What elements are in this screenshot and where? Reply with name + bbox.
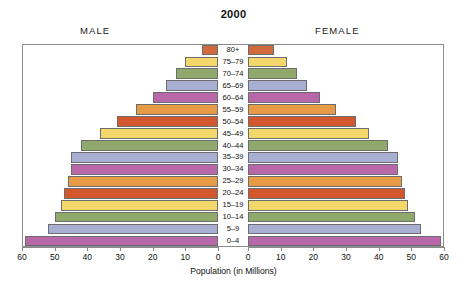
axis-tick: [87, 247, 88, 251]
male-bar: [117, 116, 218, 127]
x-axis-label: Population (in Millions): [0, 266, 467, 276]
age-band-row: 40–44: [22, 140, 444, 152]
age-band-label: 5–9: [218, 223, 248, 235]
age-band-label: 30–34: [218, 163, 248, 175]
axis-tick-label: 20: [141, 252, 165, 262]
axis-tick-label: 0: [206, 252, 230, 262]
female-bar: [248, 92, 320, 103]
female-bar: [248, 200, 408, 211]
age-band-label: 15–19: [218, 199, 248, 211]
age-band-row: 0–4: [22, 235, 444, 247]
age-band-row: 35–39: [22, 151, 444, 163]
age-band-label: 20–24: [218, 187, 248, 199]
axis-tick: [313, 247, 314, 251]
age-band-label: 10–14: [218, 211, 248, 223]
male-bar: [55, 212, 218, 223]
axis-tick-label: 10: [173, 252, 197, 262]
axis-tick-label: 60: [432, 252, 456, 262]
axis-tick-label: 10: [269, 252, 293, 262]
axis-tick-label: 50: [399, 252, 423, 262]
age-band-label: 55–59: [218, 104, 248, 116]
female-bar: [248, 188, 405, 199]
female-bar: [248, 164, 398, 175]
male-bar: [81, 140, 218, 151]
age-band-label: 80+: [218, 44, 248, 56]
male-bar: [61, 200, 218, 211]
axis-tick: [120, 247, 121, 251]
age-band-label: 0–4: [218, 235, 248, 247]
axis-tick-label: 50: [43, 252, 67, 262]
age-band-label: 40–44: [218, 140, 248, 152]
population-pyramid-chart: 2000 MALE FEMALE 80+75–7970–7465–6960–64…: [0, 0, 467, 285]
male-bar: [100, 128, 218, 139]
male-bar: [71, 152, 218, 163]
bar-rows: 80+75–7970–7465–6960–6455–5950–5445–4940…: [22, 44, 444, 247]
female-panel-label: FEMALE: [315, 25, 360, 36]
female-bar: [248, 224, 421, 235]
age-band-row: 75–79: [22, 56, 444, 68]
female-bar: [248, 152, 398, 163]
age-band-label: 65–69: [218, 80, 248, 92]
male-bar: [48, 224, 218, 235]
age-band-label: 35–39: [218, 151, 248, 163]
male-bar: [68, 176, 218, 187]
axis-tick: [379, 247, 380, 251]
male-bar: [176, 68, 218, 79]
age-band-row: 20–24: [22, 187, 444, 199]
male-bar: [185, 57, 218, 68]
age-band-label: 50–54: [218, 116, 248, 128]
axis-tick: [218, 247, 219, 251]
age-band-row: 10–14: [22, 211, 444, 223]
age-band-row: 60–64: [22, 92, 444, 104]
age-band-row: 45–49: [22, 128, 444, 140]
axis-tick: [444, 247, 445, 251]
female-bar: [248, 104, 336, 115]
age-band-row: 55–59: [22, 104, 444, 116]
female-bar: [248, 176, 402, 187]
male-bar: [25, 236, 218, 247]
axis-tick: [248, 247, 249, 251]
age-band-label: 75–79: [218, 56, 248, 68]
male-bar: [202, 45, 218, 56]
female-bar: [248, 212, 415, 223]
axis-tick: [185, 247, 186, 251]
age-band-row: 30–34: [22, 163, 444, 175]
female-bar: [248, 57, 287, 68]
age-band-row: 70–74: [22, 68, 444, 80]
axis-tick: [153, 247, 154, 251]
age-band-row: 25–29: [22, 175, 444, 187]
male-bar: [136, 104, 218, 115]
age-band-row: 50–54: [22, 116, 444, 128]
axis-tick-label: 30: [334, 252, 358, 262]
axis-tick-label: 60: [10, 252, 34, 262]
female-bar: [248, 68, 297, 79]
age-band-row: 65–69: [22, 80, 444, 92]
axis-tick: [281, 247, 282, 251]
axis-tick: [411, 247, 412, 251]
male-panel-label: MALE: [80, 25, 110, 36]
age-band-row: 5–9: [22, 223, 444, 235]
female-bar: [248, 128, 369, 139]
axis-tick-label: 0: [236, 252, 260, 262]
age-band-label: 45–49: [218, 128, 248, 140]
axis-tick: [346, 247, 347, 251]
axis-tick-label: 30: [108, 252, 132, 262]
age-band-row: 15–19: [22, 199, 444, 211]
female-bar: [248, 45, 274, 56]
female-bar: [248, 80, 307, 91]
axis-tick: [55, 247, 56, 251]
age-band-row: 80+: [22, 44, 444, 56]
axis-tick-label: 40: [75, 252, 99, 262]
age-band-label: 60–64: [218, 92, 248, 104]
chart-title: 2000: [0, 8, 467, 20]
axis-tick: [22, 247, 23, 251]
age-band-label: 25–29: [218, 175, 248, 187]
axis-tick-label: 40: [367, 252, 391, 262]
male-bar: [166, 80, 218, 91]
female-bar: [248, 236, 441, 247]
male-bar: [71, 164, 218, 175]
age-band-label: 70–74: [218, 68, 248, 80]
male-bar: [153, 92, 218, 103]
female-bar: [248, 140, 388, 151]
male-bar: [64, 188, 218, 199]
